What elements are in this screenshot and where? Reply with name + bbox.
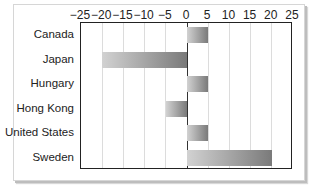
x-tick-label: 15: [243, 8, 256, 22]
gridline: [102, 23, 103, 168]
category-label: United States: [5, 126, 74, 138]
x-tick-label: −15: [112, 8, 132, 22]
gridline: [165, 23, 166, 168]
gridline: [208, 23, 209, 168]
x-tick-label: 5: [204, 8, 211, 22]
category-label: Hong Kong: [16, 102, 74, 114]
bar-japan: [102, 52, 187, 68]
gridline: [144, 23, 145, 168]
category-label: Hungary: [31, 77, 74, 89]
zero-line: [187, 23, 188, 168]
gridline: [250, 23, 251, 168]
gridline: [229, 23, 230, 168]
gridline: [123, 23, 124, 168]
x-tick-label: 20: [264, 8, 277, 22]
x-tick-label: 10: [222, 8, 235, 22]
x-tick-label: 0: [183, 8, 190, 22]
gridline: [271, 23, 272, 168]
x-tick-label: −20: [91, 8, 111, 22]
bar-sweden: [187, 150, 272, 166]
category-label: Canada: [34, 28, 74, 40]
bar-canada: [187, 27, 208, 43]
bar-hungary: [187, 76, 208, 92]
x-tick-label: 25: [285, 8, 298, 22]
category-label: Sweden: [32, 151, 74, 163]
plot-area: [80, 22, 292, 169]
x-tick-label: −5: [158, 8, 172, 22]
bar-united-states: [187, 125, 208, 141]
bar-hong-kong: [166, 101, 187, 117]
x-tick-label: −10: [133, 8, 153, 22]
category-label: Japan: [43, 53, 74, 65]
x-tick-label: −25: [70, 8, 90, 22]
